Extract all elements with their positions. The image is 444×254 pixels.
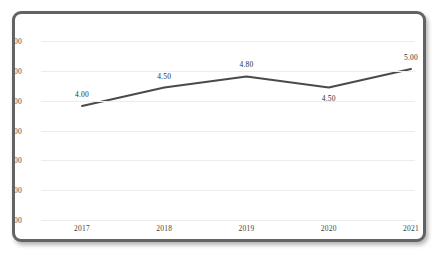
y-axis-tick-label: 00	[15, 126, 22, 135]
y-axis-tick-label: 00	[15, 37, 22, 46]
y-axis-tick-label: 00	[15, 156, 22, 165]
chart-screenshot: 00000000000000201720182019202020214.004.…	[0, 0, 444, 254]
gridline	[41, 101, 415, 102]
line-series	[15, 14, 423, 239]
gridline	[41, 41, 415, 42]
y-axis-tick-label: 00	[15, 186, 22, 195]
gridline	[41, 220, 415, 221]
data-point-label: 4.50	[157, 72, 171, 81]
y-axis-tick-label: 00	[15, 66, 22, 75]
x-axis-tick-label: 2017	[74, 224, 90, 233]
gridline	[41, 160, 415, 161]
truncated-title-strip	[0, 0, 444, 9]
x-axis-tick-label: 2019	[238, 224, 254, 233]
data-point-label: 5.00	[404, 53, 418, 62]
plot-area: 00000000000000201720182019202020214.004.…	[15, 14, 423, 239]
chart-frame: 00000000000000201720182019202020214.004.…	[12, 11, 426, 242]
x-axis-tick-label: 2020	[321, 224, 337, 233]
data-point-label: 4.80	[240, 60, 254, 69]
gridline	[41, 71, 415, 72]
x-axis-tick-label: 2018	[156, 224, 172, 233]
y-axis-tick-label: 00	[15, 216, 22, 225]
gridline	[41, 131, 415, 132]
data-point-label: 4.00	[75, 90, 89, 99]
x-axis-tick-label: 2021	[403, 224, 419, 233]
y-axis-tick-label: 00	[15, 96, 22, 105]
data-point-label: 4.50	[322, 94, 336, 103]
gridline	[41, 190, 415, 191]
